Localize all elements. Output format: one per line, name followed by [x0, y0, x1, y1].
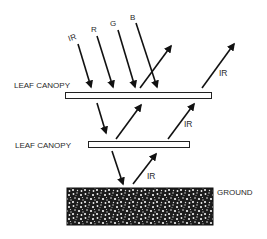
- label-green: G: [110, 19, 116, 28]
- arrow-transmitted-upper-icon: [97, 103, 106, 133]
- arrow-ir-incident-icon: [78, 44, 91, 87]
- label-ir-incident: IR: [67, 32, 78, 43]
- incident-arrows: [78, 23, 157, 87]
- incident-radiation-labels: IR R G B: [67, 13, 135, 43]
- arrow-blue-incident-icon: [136, 23, 157, 87]
- lower-leaf-canopy: [89, 142, 190, 148]
- label-blue: B: [130, 13, 135, 22]
- vegetation-reflectance-diagram: IR R G B IR LEAF CANOPY IR LEAF CANOPY I…: [0, 0, 267, 239]
- arrow-reflected-middle-icon: [116, 105, 141, 139]
- arrow-transmitted-lower-icon: [112, 151, 123, 184]
- arrow-green-incident-icon: [118, 30, 135, 87]
- label-ir-upper: IR: [219, 68, 228, 78]
- label-ir-ground: IR: [147, 171, 156, 181]
- arrow-reflected-ir-upper-icon: [202, 44, 234, 88]
- ground-label: GROUND: [217, 188, 253, 197]
- label-ir-middle: IR: [184, 119, 193, 129]
- lower-canopy-label: LEAF CANOPY: [15, 141, 72, 150]
- arrow-red-incident-icon: [97, 36, 113, 87]
- upper-leaf-canopy: [66, 93, 212, 99]
- upper-canopy-label: LEAF CANOPY: [14, 81, 71, 90]
- label-red: R: [91, 25, 97, 34]
- ground-block: [67, 188, 213, 225]
